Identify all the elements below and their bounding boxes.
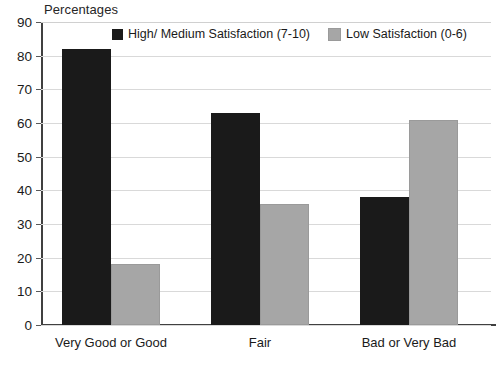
y-tick-mark (36, 224, 41, 225)
bar (211, 113, 260, 325)
x-axis-labels: Very Good or GoodFairBad or Very Bad (41, 331, 496, 359)
y-tick-mark (36, 157, 41, 158)
y-tick-mark (36, 258, 41, 259)
page-title: Percentages (44, 2, 118, 17)
y-axis-tick-label: 20 (6, 250, 32, 265)
bar (260, 204, 309, 325)
y-axis-tick-label: 70 (6, 82, 32, 97)
y-tick-mark (36, 89, 41, 90)
y-tick-mark (36, 291, 41, 292)
bar-chart: Percentages 0102030405060708090 High/ Me… (0, 0, 497, 365)
y-axis-tick-label: 40 (6, 183, 32, 198)
bar (111, 264, 160, 325)
x-axis-category-label: Very Good or Good (55, 335, 167, 350)
bar (360, 197, 409, 325)
legend-item[interactable]: Low Satisfaction (0-6) (328, 27, 467, 41)
legend-swatch-icon (112, 29, 123, 40)
legend-swatch-icon (328, 28, 341, 41)
y-tick-mark (36, 325, 41, 326)
y-axis-tick-label: 30 (6, 217, 32, 232)
legend: High/ Medium Satisfaction (7-10)Low Sati… (112, 27, 467, 41)
y-axis-tick-label: 10 (6, 284, 32, 299)
y-axis-tick-label: 80 (6, 48, 32, 63)
legend-label: Low Satisfaction (0-6) (346, 27, 467, 41)
gridline (41, 325, 491, 326)
y-axis-tick-label: 50 (6, 149, 32, 164)
x-axis-category-label: Fair (249, 335, 271, 350)
y-axis-line (41, 22, 43, 325)
y-axis-tick-label: 0 (6, 318, 32, 333)
plot-area (41, 22, 491, 325)
gridline (41, 22, 491, 23)
y-tick-mark (36, 123, 41, 124)
y-axis-tick-label: 90 (6, 15, 32, 30)
bar (62, 49, 111, 325)
legend-label: High/ Medium Satisfaction (7-10) (128, 27, 310, 41)
y-tick-mark (36, 56, 41, 57)
y-tick-mark (36, 22, 41, 23)
x-axis-category-label: Bad or Very Bad (362, 335, 457, 350)
y-axis-tick-label: 60 (6, 116, 32, 131)
y-axis-labels: 0102030405060708090 (0, 0, 32, 365)
y-tick-mark (36, 190, 41, 191)
bar (409, 120, 458, 325)
legend-item[interactable]: High/ Medium Satisfaction (7-10) (112, 27, 310, 41)
